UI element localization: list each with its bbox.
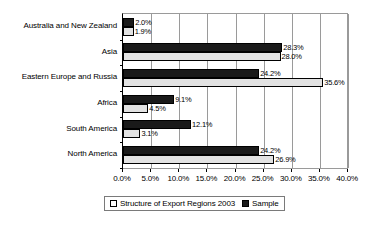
bar-chart: 2.0%1.9%28.3%28.0%24.2%35.6%9.1%4.5%12.1… — [0, 0, 371, 235]
x-axis-tick-label: 10.0% — [167, 174, 189, 183]
x-axis-tick — [150, 169, 151, 172]
x-axis-tick-label: 15.0% — [196, 174, 218, 183]
x-axis-tick — [206, 169, 207, 172]
x-axis-tick-label: 5.0% — [141, 174, 158, 183]
chart-legend: Structure of Export Regions 2003Sample — [104, 196, 285, 211]
category-label: Australia and New Zealand — [0, 21, 117, 30]
legend-label: Structure of Export Regions 2003 — [120, 199, 235, 208]
category-label: Asia — [0, 47, 117, 56]
x-axis-tick — [291, 169, 292, 172]
x-axis-tick-label: 40.0% — [336, 174, 358, 183]
x-axis-tick — [347, 169, 348, 172]
x-axis: 0.0%5.0%10.0%15.0%20.0%25.0%30.0%35.0%40… — [122, 169, 349, 189]
x-axis-tick-label: 25.0% — [252, 174, 274, 183]
x-axis-tick-label: 20.0% — [224, 174, 246, 183]
category-label: Eastern Europe and Russia — [0, 72, 117, 81]
legend-entry: Structure of Export Regions 2003 — [110, 199, 235, 208]
legend-entry: Sample — [242, 199, 279, 208]
legend-swatch — [242, 200, 249, 207]
x-axis-tick — [122, 169, 123, 172]
x-axis-tick — [235, 169, 236, 172]
x-axis-tick — [263, 169, 264, 172]
category-axis: Australia and New ZealandAsiaEastern Eur… — [0, 13, 371, 169]
category-label: North America — [0, 149, 117, 158]
x-axis-tick-label: 0.0% — [113, 174, 130, 183]
category-label: South America — [0, 124, 117, 133]
legend-label: Sample — [252, 199, 279, 208]
legend-swatch — [110, 200, 117, 207]
x-axis-tick — [319, 169, 320, 172]
x-axis-tick — [178, 169, 179, 172]
category-label: Africa — [0, 98, 117, 107]
x-axis-tick-label: 35.0% — [308, 174, 330, 183]
x-axis-tick-label: 30.0% — [280, 174, 302, 183]
